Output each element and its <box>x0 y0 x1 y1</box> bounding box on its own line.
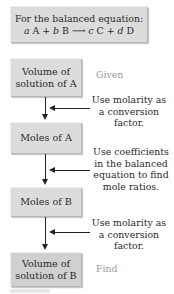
moles-a-box: Moles of A <box>10 122 81 153</box>
species-c: C + <box>94 25 118 36</box>
down-arrow-icon <box>42 244 48 250</box>
note-line: a conversion <box>84 106 174 118</box>
pointer-arrow-shaft <box>54 170 90 171</box>
note-line: in the balanced <box>88 158 174 170</box>
down-arrow-icon <box>42 179 48 185</box>
down-arrow-icon <box>42 114 48 120</box>
note-line: factor. <box>84 240 174 252</box>
note-line: a conversion <box>84 229 174 241</box>
note-line: Use molarity as <box>84 217 174 229</box>
note-line: Use coefficients <box>88 146 174 158</box>
note-line: factor. <box>84 117 174 129</box>
box-label: Moles of B <box>20 196 72 208</box>
box-label: Volume of <box>22 258 70 270</box>
equation-heading: For the balanced equation: <box>15 13 143 25</box>
left-arrow-icon <box>49 229 55 235</box>
box-label: Volume of <box>22 66 70 78</box>
find-tag: Find <box>96 263 118 274</box>
note-line: Use molarity as <box>84 94 174 106</box>
step-note-1: Use molarity as a conversion factor. <box>84 94 174 129</box>
balanced-equation-box: For the balanced equation: a A + b B ⟶ c… <box>10 6 147 42</box>
step-note-2: Use coefficients in the balanced equatio… <box>88 146 174 192</box>
left-arrow-icon <box>49 167 55 173</box>
box-label: solution of B <box>15 270 76 282</box>
equation-formula: a A + b B ⟶ c C + d D <box>24 25 134 37</box>
note-line: mole ratios. <box>88 181 174 193</box>
left-arrow-icon <box>49 105 55 111</box>
given-tag: Given <box>96 69 123 80</box>
species-b: B <box>59 25 72 36</box>
step-note-3: Use molarity as a conversion factor. <box>84 217 174 252</box>
box-label: solution of A <box>15 78 76 90</box>
down-arrow-shaft <box>45 154 46 181</box>
reaction-arrow-icon: ⟶ <box>72 25 85 36</box>
box-label: Moles of A <box>20 132 72 144</box>
moles-b-box: Moles of B <box>10 187 81 216</box>
down-arrow-shaft <box>45 217 46 246</box>
caption-fragment <box>10 289 50 293</box>
species-a: A + <box>29 25 53 36</box>
volume-solution-b-box: Volume of solution of B <box>10 252 81 286</box>
species-d: D <box>124 25 135 36</box>
note-line: equation to find <box>88 169 174 181</box>
volume-solution-a-box: Volume of solution of A <box>10 58 81 96</box>
